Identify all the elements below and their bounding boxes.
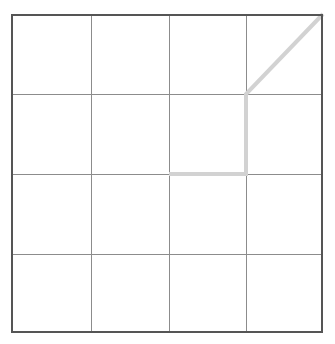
grid-diagram xyxy=(0,0,335,344)
figure-canvas xyxy=(0,0,335,344)
